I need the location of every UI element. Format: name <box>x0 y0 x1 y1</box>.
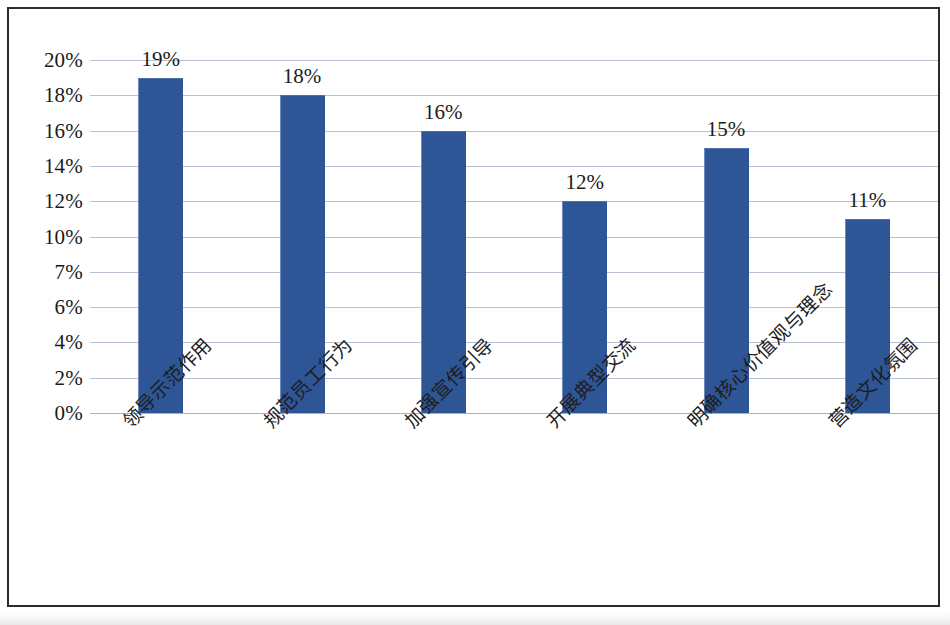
gridline <box>90 201 938 202</box>
gridline <box>90 131 938 132</box>
chart-frame: 20%18%16%14%12%10%7%6%4%2%0% 19%18%16%12… <box>7 7 940 607</box>
y-axis-tick-label: 12% <box>17 191 83 212</box>
y-axis-tick-label: 2% <box>17 367 83 388</box>
gridline <box>90 95 938 96</box>
gridline <box>90 378 938 379</box>
y-axis-tick-label: 6% <box>17 297 83 318</box>
y-axis-tick-label: 0% <box>17 403 83 424</box>
scanned-page: 20%18%16%14%12%10%7%6%4%2%0% 19%18%16%12… <box>0 0 950 625</box>
bar-value-label: 19% <box>141 49 180 70</box>
y-axis: 20%18%16%14%12%10%7%6%4%2%0% <box>9 60 83 413</box>
y-axis-tick-label: 10% <box>17 226 83 247</box>
bar-value-label: 11% <box>848 190 886 211</box>
y-axis-tick-label: 16% <box>17 120 83 141</box>
gridline <box>90 237 938 238</box>
plot-area: 19%18%16%12%15%11% <box>90 60 938 413</box>
gridline <box>90 60 938 61</box>
y-axis-tick-label: 20% <box>17 50 83 71</box>
bar-value-label: 18% <box>283 66 322 87</box>
y-axis-tick-label: 7% <box>17 261 83 282</box>
x-axis-category-labels: 领导示范作用规范员工行为加强宣传引导开展典型交流明确核心价值观与理念营造文化氛围 <box>90 413 938 609</box>
scan-edge-artifact <box>0 611 950 625</box>
y-axis-tick-label: 4% <box>17 332 83 353</box>
bar-value-label: 16% <box>424 102 463 123</box>
bar-value-label: 15% <box>707 119 746 140</box>
y-axis-tick-label: 18% <box>17 85 83 106</box>
bar-value-label: 12% <box>565 172 604 193</box>
gridline <box>90 166 938 167</box>
y-axis-tick-label: 14% <box>17 155 83 176</box>
gridline <box>90 272 938 273</box>
gridline <box>90 342 938 343</box>
